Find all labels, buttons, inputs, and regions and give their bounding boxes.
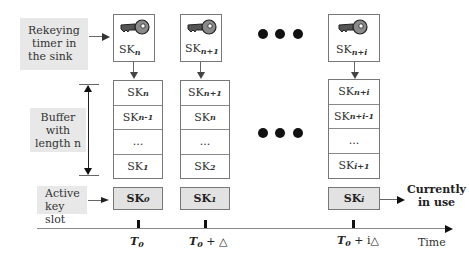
buffer-line-3: length n — [30, 137, 86, 150]
time-axis — [37, 228, 447, 229]
timer-arrowhead-icon — [102, 33, 110, 41]
buffer: SKn+i SKn+i-1 ... SKi+1 — [328, 79, 380, 179]
in-use-line-1: Currently — [407, 183, 466, 196]
key-icon — [120, 18, 150, 36]
key-label: SKn — [119, 43, 141, 57]
dot-icon — [258, 128, 268, 138]
buffer-cell: SK2 — [181, 155, 229, 180]
buffer-cell: SKn-1 — [114, 106, 162, 131]
rekeying-line-1: Rekeying — [28, 24, 88, 37]
buffer: SKn+1 SKn ... SK2 — [180, 80, 230, 179]
dot-icon — [258, 29, 268, 39]
active-arrowhead-icon — [101, 197, 109, 203]
dot-icon — [275, 29, 285, 39]
rekeying-line-2: timer in — [28, 37, 88, 50]
key-box: SKn+1 — [180, 14, 222, 62]
buffer-cell: SKn+1 — [181, 81, 229, 106]
active-key-slot: SKi — [328, 187, 380, 210]
buffer-length-arrow-line — [88, 86, 89, 174]
time-tick-label: T0 + i△ — [337, 234, 379, 248]
time-tick-label: T0 — [130, 235, 144, 249]
column-t0-plus-i-delta: SKn+i SKn+i SKn+i-1 ... SKi+1 SKi T0 + i… — [328, 0, 380, 258]
buffer-cell: SK1 — [114, 155, 162, 180]
active-key-slot-label: Active key slot — [37, 186, 87, 214]
key-icon — [187, 18, 217, 36]
ellipsis-dots-top — [258, 29, 308, 39]
active-key-slot: SK1 — [180, 187, 230, 210]
time-tick — [352, 220, 355, 228]
buffer-length-label: Buffer with length n — [30, 108, 86, 152]
in-use-arrow-line — [380, 199, 398, 200]
time-tick — [204, 220, 207, 228]
buffer-bracket-bottom — [79, 175, 99, 176]
active-line-2: key slot — [45, 200, 87, 226]
buffer-cell: SKn+i-1 — [329, 105, 379, 130]
arrow-down-icon — [84, 168, 92, 175]
in-use-arrowhead-icon — [397, 196, 405, 204]
dot-icon — [293, 128, 303, 138]
arrow-up-icon — [84, 85, 92, 92]
arrow-down-icon — [197, 72, 205, 79]
buffer-line-2: with — [30, 124, 86, 137]
buffer-cell: ... — [114, 130, 162, 155]
time-tick-label: T0 + △ — [189, 235, 227, 249]
active-arrow-line — [88, 200, 102, 201]
buffer-cell: SKi+1 — [329, 154, 379, 179]
key-box: SKn+i — [328, 14, 380, 62]
buffer-cell: SKn — [181, 106, 229, 131]
key-label: SKn+i — [336, 43, 367, 57]
rekeying-line-3: the sink — [28, 50, 88, 63]
dot-icon — [293, 29, 303, 39]
buffer-cell: SKn — [114, 81, 162, 106]
dot-icon — [275, 128, 285, 138]
rekeying-timer-label: Rekeying timer in the sink — [20, 18, 88, 70]
arrow-down-icon — [130, 72, 138, 79]
buffer-cell: SKn+i — [329, 80, 379, 105]
currently-in-use-label: Currently in use — [407, 183, 466, 209]
time-tick — [137, 220, 140, 228]
column-t0: SKn SKn SKn-1 ... SK1 SK0 T0 — [113, 0, 165, 258]
arrow-down-icon — [351, 72, 359, 79]
key-box: SKn — [113, 14, 155, 62]
buffer: SKn SKn-1 ... SK1 — [113, 80, 163, 179]
active-line-1: Active — [45, 187, 87, 200]
in-use-line-2: in use — [407, 196, 466, 209]
key-icon — [338, 18, 368, 36]
time-axis-arrowhead-icon — [445, 225, 453, 233]
time-axis-label: Time — [418, 236, 446, 249]
buffer-cell: ... — [181, 130, 229, 155]
timer-arrow-line — [89, 36, 103, 37]
buffer-cell: ... — [329, 129, 379, 154]
ellipsis-dots-middle — [258, 128, 308, 138]
column-t0-plus-delta: SKn+1 SKn+1 SKn ... SK2 SK1 T0 + △ — [180, 0, 232, 258]
key-label: SKn+1 — [185, 42, 219, 56]
buffer-line-1: Buffer — [30, 111, 86, 124]
active-key-slot: SK0 — [113, 187, 163, 210]
